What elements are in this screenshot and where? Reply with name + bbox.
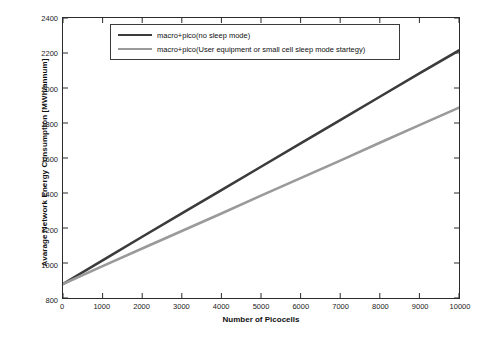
x-tick-label: 7000 [332, 302, 349, 311]
x-tick-label: 6000 [292, 302, 309, 311]
x-axis-tick-labels: 0100020003000400050006000700080009000100… [62, 302, 460, 314]
x-tick-label: 3000 [173, 302, 190, 311]
x-tick-label: 0 [60, 302, 64, 311]
chart-screenshot: 80010001200140016001800200022002400 0100… [0, 0, 477, 345]
plot-area [63, 18, 459, 298]
y-tick-label: 800 [45, 296, 58, 305]
legend-swatch-0 [118, 34, 152, 36]
legend-label-1: macro+pico(User equipment or small cell … [157, 45, 365, 54]
y-axis-label: Avarage Network Energy Consumption [MWh/… [40, 33, 49, 293]
legend: macro+pico(no sleep mode) macro+pico(Use… [110, 24, 400, 60]
legend-item-0: macro+pico(no sleep mode) [115, 28, 395, 42]
x-tick-label: 1000 [93, 302, 110, 311]
legend-swatch-1 [118, 48, 152, 50]
x-tick-label: 8000 [372, 302, 389, 311]
x-tick-label: 5000 [253, 302, 270, 311]
x-tick-label: 2000 [133, 302, 150, 311]
legend-label-0: macro+pico(no sleep mode) [157, 31, 250, 40]
x-tick-label: 9000 [412, 302, 429, 311]
y-tick-label: 2400 [41, 14, 58, 23]
series-line-0 [63, 50, 459, 284]
x-tick-label: 4000 [213, 302, 230, 311]
legend-item-1: macro+pico(User equipment or small cell … [115, 42, 395, 56]
x-axis-label: Number of Picocells [62, 315, 460, 324]
series-line-1 [63, 108, 459, 284]
x-tick-label: 10000 [450, 302, 471, 311]
